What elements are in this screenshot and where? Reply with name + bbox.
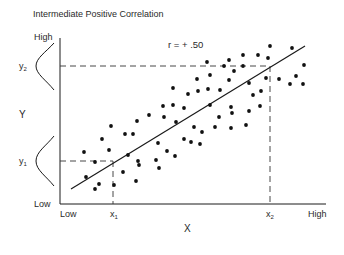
data-point	[112, 183, 116, 187]
data-point	[192, 125, 196, 129]
y2-distribution-curve	[36, 43, 54, 90]
data-point	[301, 82, 305, 86]
data-point	[161, 104, 165, 108]
data-point	[165, 149, 169, 153]
data-point	[290, 46, 294, 50]
data-point	[156, 141, 160, 145]
data-point	[277, 77, 281, 81]
data-point	[208, 103, 212, 107]
x-axis-low-label: Low	[60, 209, 77, 219]
data-point	[227, 78, 231, 82]
data-point	[256, 53, 260, 57]
data-point	[147, 113, 151, 117]
data-point	[182, 137, 186, 141]
data-point	[126, 153, 130, 157]
data-point	[154, 158, 158, 162]
data-point	[134, 179, 138, 183]
data-point	[222, 64, 226, 68]
y-axis-low-label: Low	[34, 199, 51, 209]
y1-distribution-curve	[36, 136, 54, 186]
data-point	[266, 56, 270, 60]
data-point	[229, 126, 233, 130]
data-point	[264, 76, 268, 80]
data-point	[186, 92, 190, 96]
data-point	[171, 103, 175, 107]
data-point	[93, 187, 97, 191]
data-point	[232, 69, 236, 73]
data-point	[241, 64, 245, 68]
data-point	[198, 142, 202, 146]
data-point	[247, 81, 251, 85]
y2-label: y2	[19, 61, 28, 72]
data-point	[247, 109, 251, 113]
data-point	[213, 125, 217, 129]
data-point	[251, 93, 255, 97]
scatter-chart: Intermediate Positive Correlation r = + …	[0, 0, 344, 255]
data-point	[195, 77, 199, 81]
data-point	[302, 63, 306, 67]
data-point	[206, 87, 210, 91]
data-point	[162, 115, 166, 119]
data-point	[208, 73, 212, 77]
data-point	[173, 154, 177, 158]
x1-label: x1	[110, 209, 119, 220]
y1-label: y1	[19, 156, 28, 167]
data-point	[229, 105, 233, 109]
chart-title: Intermediate Positive Correlation	[33, 9, 164, 19]
data-point	[97, 182, 101, 186]
data-point	[121, 170, 125, 174]
x-axis-high-label: High	[308, 209, 327, 219]
x-axis-title: X	[184, 223, 191, 234]
axes	[60, 38, 326, 204]
y-axis-high-label: High	[34, 32, 53, 42]
data-point	[157, 166, 161, 170]
data-point	[200, 130, 204, 134]
data-point	[82, 150, 86, 154]
data-point	[109, 124, 113, 128]
data-point	[182, 106, 186, 110]
data-point	[217, 115, 221, 119]
data-point	[227, 58, 231, 62]
data-point	[288, 82, 292, 86]
data-point	[189, 140, 193, 144]
data-point	[135, 119, 139, 123]
data-point	[241, 53, 245, 57]
correlation-annotation: r = + .50	[168, 39, 203, 50]
data-point	[100, 137, 104, 141]
data-point	[84, 175, 88, 179]
data-point	[174, 120, 178, 124]
data-point	[136, 159, 140, 163]
distribution-curves	[36, 43, 54, 186]
data-point	[230, 111, 234, 115]
data-point	[196, 89, 200, 93]
data-point	[205, 60, 209, 64]
data-point	[244, 123, 248, 127]
data-point	[137, 163, 141, 167]
data-point	[171, 86, 175, 90]
data-point	[259, 89, 263, 93]
data-point	[107, 148, 111, 152]
data-point	[218, 88, 222, 92]
x2-label: x2	[266, 209, 275, 220]
data-point	[123, 132, 127, 136]
data-point	[258, 104, 262, 108]
data-point	[294, 74, 298, 78]
data-point	[268, 44, 272, 48]
data-point	[131, 132, 135, 136]
data-point	[93, 160, 97, 164]
y-axis-title: Y	[19, 109, 26, 120]
